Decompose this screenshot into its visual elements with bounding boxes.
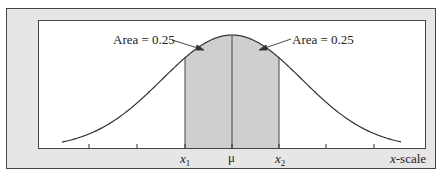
normal-distribution-figure: Area = 0.25 Area = 0.25 x1 μ x2 x-scale [0, 0, 443, 176]
left-area-label: Area = 0.25 [113, 32, 175, 47]
mu-label: μ [228, 150, 235, 165]
right-area-label: Area = 0.25 [292, 32, 354, 47]
axis-label: x-scale [389, 151, 426, 166]
